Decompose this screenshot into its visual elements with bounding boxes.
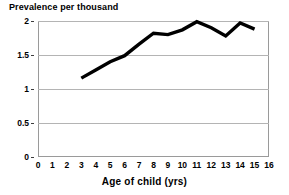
chart-container: Prevalence per thousand 00.511.52 012345… [0, 0, 289, 195]
x-tick-label: 11 [192, 160, 201, 170]
chart-title: Prevalence per thousand [9, 2, 118, 12]
x-tick-label: 13 [221, 160, 230, 170]
x-tick-label: 5 [108, 160, 113, 170]
x-tick-label: 8 [151, 160, 156, 170]
x-tick-label: 4 [93, 160, 98, 170]
x-tick-label: 14 [235, 160, 244, 170]
x-tick-label: 15 [250, 160, 259, 170]
y-tick-label: 1 [24, 85, 29, 94]
y-tick-label: 0.5 [17, 119, 29, 128]
x-tick-label: 16 [264, 160, 273, 170]
y-tick-mark [31, 123, 34, 124]
x-tick-label: 1 [50, 160, 55, 170]
x-tick-label: 0 [36, 160, 41, 170]
y-tick-mark [31, 55, 34, 56]
x-tick-label: 7 [137, 160, 142, 170]
y-tick-mark [31, 157, 34, 158]
y-tick-label: 1.5 [17, 51, 29, 60]
y-tick-label: 2 [24, 17, 29, 26]
x-tick-label: 12 [207, 160, 216, 170]
y-tick-label: 0 [24, 153, 29, 162]
x-tick-label: 10 [178, 160, 187, 170]
x-axis-title: Age of child (yrs) [0, 176, 289, 187]
series-line-chart [38, 21, 269, 157]
x-tick-label: 3 [79, 160, 84, 170]
x-tick-label: 2 [65, 160, 70, 170]
x-tick-label: 9 [166, 160, 171, 170]
y-tick-mark [31, 21, 34, 22]
plot-wrapper [38, 21, 269, 157]
series-polyline [81, 22, 254, 78]
x-axis: 012345678910111213141516 [38, 160, 269, 172]
y-axis: 00.511.52 [0, 21, 34, 157]
y-tick-mark [31, 89, 34, 90]
x-tick-label: 6 [122, 160, 127, 170]
